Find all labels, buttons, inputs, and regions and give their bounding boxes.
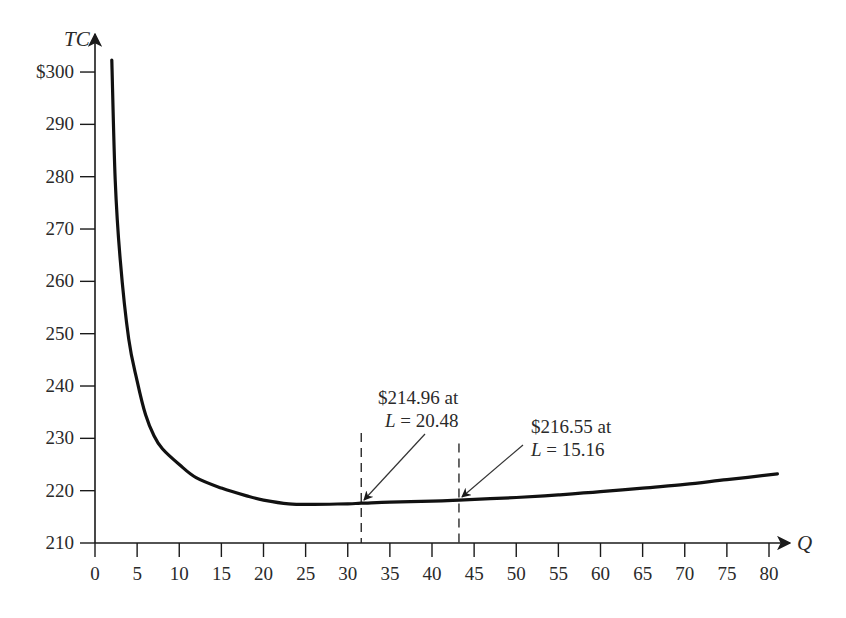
x-tick-label: 50 (507, 563, 526, 584)
x-tick-label: 60 (591, 563, 610, 584)
x-tick-label: 80 (760, 563, 779, 584)
y-axis-title: TC (64, 27, 91, 51)
y-axis: TC 210220230240250260270280290$300 (36, 27, 95, 553)
x-tick-label: 15 (212, 563, 231, 584)
annotation-2-line2: L = 15.16 (530, 439, 605, 460)
annotation-1-arrow (364, 434, 425, 500)
x-tick-label: 45 (465, 563, 484, 584)
x-tick-label: 30 (338, 563, 357, 584)
y-ticks: 210220230240250260270280290$300 (36, 61, 95, 553)
annotation-min-cost-1: $214.96 at L = 20.48 (364, 387, 459, 500)
x-tick-label: 70 (675, 563, 694, 584)
y-tick-label: 270 (46, 218, 75, 239)
x-axis-title: Q (797, 531, 812, 555)
x-tick-label: 65 (633, 563, 652, 584)
x-axis: Q 05101520253035404550556065707580 (90, 531, 812, 584)
annotation-1-line1: $214.96 at (378, 387, 459, 408)
x-tick-label: 40 (423, 563, 442, 584)
x-tick-label: 5 (132, 563, 142, 584)
x-tick-label: 10 (170, 563, 189, 584)
y-tick-label: 290 (46, 113, 75, 134)
annotation-1-line2: L = 20.48 (384, 410, 459, 431)
annotations: $214.96 at L = 20.48 $216.55 at L = 15.1… (364, 387, 612, 500)
annotation-2-arrow (462, 445, 523, 497)
y-tick-label: 250 (46, 323, 75, 344)
x-tick-label: 0 (90, 563, 100, 584)
total-cost-chart: TC 210220230240250260270280290$300 Q 051… (0, 0, 846, 618)
y-tick-label: $300 (36, 61, 74, 82)
y-tick-label: 240 (46, 375, 75, 396)
annotation-min-cost-2: $216.55 at L = 15.16 (462, 416, 612, 497)
x-tick-label: 55 (549, 563, 568, 584)
x-tick-label: 25 (296, 563, 315, 584)
y-tick-label: 210 (46, 532, 75, 553)
tc-curve (112, 60, 778, 504)
x-ticks: 05101520253035404550556065707580 (90, 543, 778, 584)
y-tick-label: 280 (46, 166, 75, 187)
y-tick-label: 220 (46, 480, 75, 501)
y-tick-label: 260 (46, 270, 75, 291)
annotation-2-line1: $216.55 at (531, 416, 612, 437)
x-tick-label: 20 (254, 563, 273, 584)
y-tick-label: 230 (46, 427, 75, 448)
x-tick-label: 35 (380, 563, 399, 584)
x-tick-label: 75 (717, 563, 736, 584)
